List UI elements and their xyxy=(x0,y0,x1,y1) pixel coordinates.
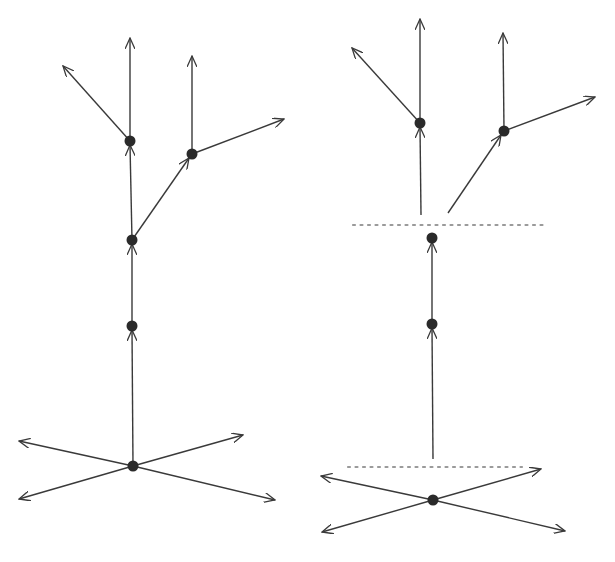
edge-arrow xyxy=(19,466,133,499)
edge-arrow xyxy=(19,441,133,466)
edge-arrow xyxy=(503,33,504,131)
vertex-node xyxy=(128,461,139,472)
vertex-node xyxy=(427,233,438,244)
edge-arrow xyxy=(132,158,189,240)
edge-arrow xyxy=(433,500,565,531)
edge-arrow xyxy=(352,48,420,123)
vertex-node xyxy=(127,321,138,332)
right-tree-diagram xyxy=(321,19,595,532)
edge-arrow xyxy=(133,435,243,466)
edge-arrow xyxy=(132,330,133,466)
edge-arrow xyxy=(321,476,433,500)
edge-arrow xyxy=(433,469,541,500)
vertex-node xyxy=(187,149,198,160)
vertex-node xyxy=(415,118,426,129)
edge-arrow xyxy=(448,135,501,213)
edge-arrow xyxy=(504,97,595,131)
diagram-canvas xyxy=(0,0,615,562)
edge-arrow xyxy=(130,145,132,240)
vertex-node xyxy=(428,495,439,506)
vertex-node xyxy=(125,136,136,147)
edge-arrow xyxy=(432,328,433,459)
edge-arrow xyxy=(63,66,130,141)
left-tree-diagram xyxy=(19,38,284,500)
vertex-node xyxy=(499,126,510,137)
edge-arrow xyxy=(192,119,284,154)
vertex-node xyxy=(427,319,438,330)
edge-arrow xyxy=(420,127,421,215)
edge-arrow xyxy=(322,500,433,532)
edge-arrow xyxy=(133,466,275,500)
vertex-node xyxy=(127,235,138,246)
